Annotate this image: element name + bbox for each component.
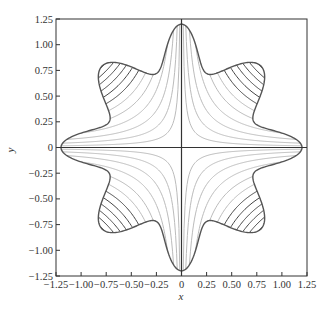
contour-line (225, 14, 311, 103)
contour-line (229, 14, 311, 99)
contour-line (206, 173, 311, 281)
contour-line (52, 14, 138, 103)
contour-line (52, 14, 143, 108)
contour-line (215, 182, 311, 281)
y-tick-label: 1.25 (35, 14, 53, 25)
y-tick-label: 0 (48, 142, 53, 153)
x-tick-label: 1.00 (273, 279, 291, 290)
x-tick-label: −0.25 (144, 279, 168, 290)
contour-line (197, 14, 311, 132)
contour-line (51, 182, 147, 281)
contour-line (225, 192, 311, 281)
contour-line (183, 14, 312, 146)
x-tick-label: −0.75 (94, 279, 118, 290)
y-tick-label: −0.50 (29, 193, 53, 204)
contour-line (51, 14, 174, 141)
contour-line (51, 14, 178, 144)
y-tick-label: −0.25 (29, 168, 53, 179)
contour-line (51, 173, 156, 281)
contour-line (197, 163, 311, 281)
x-tick-label: 0.50 (223, 279, 241, 290)
y-tick-label: −0.75 (29, 219, 53, 230)
contour-chart: −1.25−1.00−0.75−0.50−0.2500.250.500.751.… (0, 0, 327, 310)
contour-line (185, 151, 312, 281)
contour-line (51, 149, 180, 281)
contour-line (188, 14, 311, 141)
contour-line (185, 14, 312, 144)
x-tick-label: 0 (179, 279, 184, 290)
x-tick-label: 0.75 (248, 279, 266, 290)
contour-line (51, 155, 174, 282)
contour-line (51, 14, 147, 113)
contour-line (52, 187, 143, 281)
y-tick-label: 0.75 (35, 65, 53, 76)
contour-line (52, 192, 138, 281)
contour-line (220, 14, 311, 108)
y-tick-label: 1.00 (35, 39, 53, 50)
contour-line (206, 14, 311, 122)
x-tick-label: 0.25 (197, 279, 215, 290)
contour-line (51, 197, 133, 282)
contour-line (51, 14, 156, 122)
y-tick-label: −1.00 (29, 245, 53, 256)
y-axis-ticks: 1.251.000.750.500.250−0.25−0.50−0.75−1.0… (29, 14, 60, 282)
contour-line (188, 155, 311, 282)
contour-line (51, 14, 133, 99)
y-axis-label: y (4, 147, 16, 153)
contour-line (52, 163, 166, 281)
x-tick-label: 1.25 (298, 279, 316, 290)
x-axis-ticks: −1.25−1.00−0.75−0.50−0.2500.250.500.751.… (44, 272, 316, 290)
y-tick-label: −1.25 (29, 271, 53, 282)
y-tick-label: 0.25 (35, 116, 53, 127)
contour-line (51, 14, 180, 146)
x-axis-label: x (178, 290, 184, 302)
contour-line (52, 14, 166, 132)
contour-line (183, 149, 312, 281)
x-tick-label: −1.00 (69, 279, 93, 290)
y-tick-label: 0.50 (35, 91, 53, 102)
contour-line (215, 14, 311, 113)
contour-line (51, 151, 178, 281)
x-tick-label: −0.50 (119, 279, 143, 290)
contour-line (220, 187, 311, 281)
contour-line (229, 197, 311, 282)
